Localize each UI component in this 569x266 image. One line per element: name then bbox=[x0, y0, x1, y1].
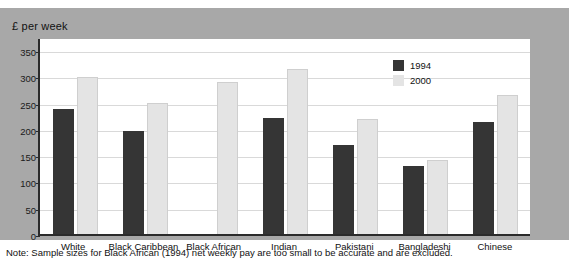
bar-2000-black-african bbox=[217, 82, 238, 234]
legend-label: 1994 bbox=[410, 60, 431, 71]
bar-group bbox=[250, 39, 320, 234]
bar-1994-black-caribbean bbox=[123, 131, 144, 234]
bar-2000-pakistani bbox=[357, 119, 378, 234]
y-axis-tick-label: 250 bbox=[4, 99, 36, 110]
chart-note: Note: Sample sizes for Black African (19… bbox=[6, 247, 453, 258]
y-axis-tick-mark bbox=[36, 157, 40, 158]
y-axis-tick-mark bbox=[36, 236, 40, 237]
bar-group bbox=[180, 39, 250, 234]
chart-panel: £ per week 050100150200250300350 WhiteBl… bbox=[0, 8, 569, 240]
y-axis-tick-label: 200 bbox=[4, 125, 36, 136]
plot-area bbox=[38, 39, 530, 236]
x-axis-label-chinese: Chinese bbox=[460, 239, 530, 255]
y-axis-tick-label: 300 bbox=[4, 73, 36, 84]
y-axis-tick-mark bbox=[36, 183, 40, 184]
legend-item-1994: 1994 bbox=[393, 60, 431, 71]
y-axis-ticks: 050100150200250300350 bbox=[0, 39, 36, 236]
bar-1994-pakistani bbox=[333, 145, 354, 234]
y-axis-tick-mark bbox=[36, 105, 40, 106]
y-axis-tick-label: 350 bbox=[4, 47, 36, 58]
bar-group bbox=[40, 39, 110, 234]
y-axis-tick-label: 150 bbox=[4, 152, 36, 163]
bar-2000-white bbox=[77, 77, 98, 234]
bar-1994-indian bbox=[263, 118, 284, 234]
bar-2000-indian bbox=[287, 69, 308, 234]
bar-1994-bangladeshi bbox=[403, 166, 424, 234]
bar-group bbox=[460, 39, 530, 234]
bar-2000-chinese bbox=[497, 95, 518, 234]
bar-group bbox=[320, 39, 390, 234]
bar-2000-black-caribbean bbox=[147, 103, 168, 234]
legend-swatch-icon bbox=[393, 60, 404, 71]
bar-2000-bangladeshi bbox=[427, 160, 448, 234]
y-axis-tick-label: 50 bbox=[4, 204, 36, 215]
y-axis-tick-mark bbox=[36, 210, 40, 211]
legend-item-2000: 2000 bbox=[393, 75, 431, 86]
y-axis-tick-mark bbox=[36, 131, 40, 132]
legend-swatch-icon bbox=[393, 75, 404, 86]
bar-1994-chinese bbox=[473, 122, 494, 234]
panel-title: £ per week bbox=[12, 20, 68, 32]
y-axis-tick-mark bbox=[36, 78, 40, 79]
y-axis-tick-label: 100 bbox=[4, 178, 36, 189]
bar-1994-white bbox=[53, 109, 74, 234]
legend: 19942000 bbox=[393, 60, 431, 86]
legend-label: 2000 bbox=[410, 75, 431, 86]
bar-group bbox=[110, 39, 180, 234]
y-axis-tick-mark bbox=[36, 52, 40, 53]
figure: £ per week 050100150200250300350 WhiteBl… bbox=[0, 0, 569, 266]
bar-groups bbox=[40, 39, 530, 234]
y-axis-tick-label: 0 bbox=[4, 231, 36, 242]
